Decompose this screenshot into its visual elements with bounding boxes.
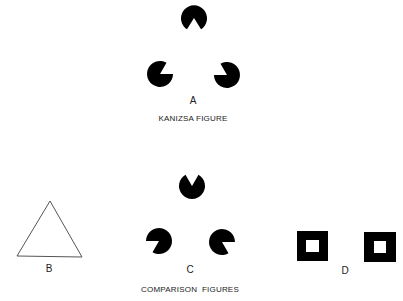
- caption-kanizsa: KANIZSA FIGURE: [158, 114, 227, 123]
- figure-canvas: [0, 0, 403, 301]
- square-right-hole: [374, 241, 386, 253]
- comparison-figure: [146, 175, 235, 255]
- square-left-hole: [306, 240, 319, 252]
- pacman-bottom-right: [214, 62, 240, 88]
- pacman-bottom-right: [209, 229, 235, 255]
- square-figure: [297, 231, 396, 262]
- label-b: B: [46, 263, 53, 274]
- label-d: D: [341, 265, 348, 276]
- label-c: C: [186, 264, 193, 275]
- pacman-top: [179, 175, 205, 199]
- pacman-top: [181, 5, 207, 29]
- label-a: A: [190, 95, 197, 106]
- caption-comparison: COMPARISON FIGURES: [141, 285, 239, 294]
- pacman-bottom-left: [147, 61, 173, 87]
- pacman-bottom-left: [146, 228, 172, 254]
- kanizsa-figure: [147, 5, 240, 88]
- outline-triangle: [17, 201, 82, 257]
